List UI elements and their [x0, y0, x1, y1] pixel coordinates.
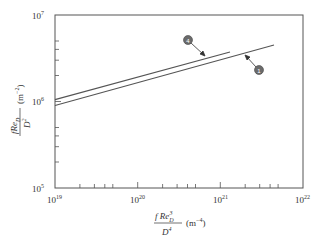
x-ticks [80, 182, 278, 188]
svg-text:(m−4): (m−4) [186, 217, 205, 228]
callout-arrows [191, 43, 256, 67]
marker-4: 4 [184, 36, 193, 45]
svg-text:D4: D4 [161, 226, 172, 237]
chart: 107 106 105 1019 1020 1021 1022 4 1 f Re… [0, 0, 324, 246]
svg-text:f ReD3: f ReD3 [155, 210, 174, 223]
marker-1: 1 [255, 66, 264, 75]
series-1-line [55, 45, 274, 106]
plot-frame [55, 15, 303, 188]
y-tick-1e6: 106 [32, 96, 44, 107]
x-tick-1e21: 1021 [213, 194, 228, 205]
x-axis-label: f ReD3 D4 (m−4) [154, 210, 205, 237]
y-axis-label: fReD D2 (m−2) [9, 85, 32, 136]
svg-text:fReD: fReD [9, 117, 21, 134]
x-tick-1e22: 1022 [295, 194, 310, 205]
series-4-line [55, 52, 230, 100]
x-tick-1e19: 1019 [47, 194, 62, 205]
y-tick-1e5: 105 [32, 183, 44, 194]
y-tick-1e7: 107 [32, 10, 44, 21]
svg-text:(m−2): (m−2) [14, 85, 25, 104]
x-tick-1e20: 1020 [130, 194, 145, 205]
svg-text:D2: D2 [21, 119, 32, 130]
y-ticks [55, 41, 61, 162]
